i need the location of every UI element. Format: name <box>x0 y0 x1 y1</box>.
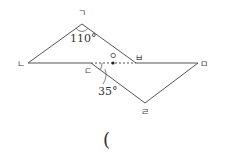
label-digeut: ㄷ <box>84 66 92 76</box>
segment-rieul-mieum <box>145 63 198 103</box>
label-ieung: ㅇ <box>109 51 117 61</box>
angle-pointer <box>103 69 106 84</box>
label-rieul: ㄹ <box>141 107 149 117</box>
answer-paren: ( <box>103 129 110 150</box>
label-giyeok: ㄱ <box>78 8 86 18</box>
angle-arc-top <box>76 28 88 31</box>
angle-label-top: 110° <box>70 32 97 45</box>
angle-label-bottom: 35° <box>98 85 118 98</box>
label-bieup: ㅂ <box>135 53 143 63</box>
label-nieun: ㄴ <box>17 59 25 69</box>
diagram-canvas: ㄱ ㄴ ㄷ ㅇ ㅂ ㅁ ㄹ 110° 35° ( <box>0 0 246 158</box>
angle-arc-bottom <box>100 63 102 70</box>
center-point-dot <box>111 61 114 64</box>
label-mieum: ㅁ <box>200 59 208 69</box>
